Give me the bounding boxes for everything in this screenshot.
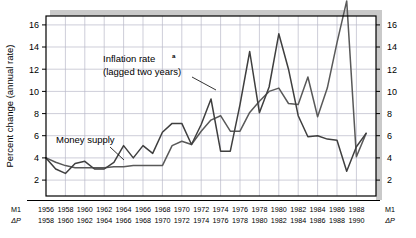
- x-tick-m1-11: 1978: [251, 205, 267, 214]
- x-tick-m1-8: 1972: [193, 205, 209, 214]
- x-row-label-right-m1: M1: [385, 205, 395, 214]
- y-tick-right-10: 10: [387, 87, 397, 97]
- y-tick-right-8: 8: [387, 109, 392, 119]
- x-tick-dp-6: 1970: [154, 216, 170, 225]
- x-tick-dp-2: 1962: [77, 216, 93, 225]
- x-tick-dp-16: 1990: [348, 216, 364, 225]
- x-tick-dp-10: 1978: [232, 216, 248, 225]
- y-axis-title: Percent change (annual rate): [4, 44, 15, 167]
- x-tick-m1-13: 1982: [290, 205, 306, 214]
- y-axis-left-labels: 16 14 12 10 8 6 4 2: [29, 20, 39, 185]
- y-tick-right-14: 14: [387, 42, 397, 52]
- y-axis-right-labels: 16 14 12 10 8 6 4 2: [387, 20, 397, 185]
- inflation-rate-annotation-superscript: a: [172, 52, 176, 59]
- frame-shadow-top: [50, 10, 382, 16]
- x-tick-m1-10: 1976: [232, 205, 248, 214]
- x-row-label-left-m1: M1: [11, 205, 21, 214]
- x-tick-dp-13: 1984: [290, 216, 306, 225]
- x-tick-dp-3: 1964: [96, 216, 112, 225]
- x-tick-dp-1: 1960: [57, 216, 73, 225]
- x-tick-dp-0: 1958: [38, 216, 54, 225]
- x-tick-m1-0: 1956: [38, 205, 54, 214]
- x-tick-dp-7: 1972: [174, 216, 190, 225]
- x-tick-m1-1: 1958: [57, 205, 73, 214]
- x-tick-dp-4: 1966: [116, 216, 132, 225]
- x-row-label-left-delta-p: ΔP: [10, 216, 21, 225]
- chart-figure: 16 14 12 10 8 6 4 2 16 14 12 10 8 6 4 2 …: [0, 0, 416, 238]
- x-tick-m1-15: 1986: [329, 205, 345, 214]
- y-tick-right-12: 12: [387, 65, 397, 75]
- y-tick-right-16: 16: [387, 20, 397, 30]
- x-tick-m1-4: 1964: [116, 205, 132, 214]
- y-tick-left-2: 2: [34, 175, 39, 185]
- money-supply-inflation-line-chart: 16 14 12 10 8 6 4 2 16 14 12 10 8 6 4 2 …: [0, 0, 416, 238]
- inflation-rate-annotation-line2: (lagged two years): [103, 66, 181, 77]
- frame-shadow-right: [376, 16, 382, 200]
- y-tick-left-12: 12: [29, 65, 39, 75]
- money-supply-annotation-label: Money supply: [56, 134, 115, 145]
- inflation-rate-annotation-line1: Inflation rate: [103, 53, 155, 64]
- x-tick-dp-12: 1982: [271, 216, 287, 225]
- y-tick-left-14: 14: [29, 42, 39, 52]
- x-tick-dp-11: 1980: [251, 216, 267, 225]
- y-tick-left-6: 6: [34, 131, 39, 141]
- x-tick-m1-5: 1966: [135, 205, 151, 214]
- x-tick-m1-6: 1968: [154, 205, 170, 214]
- x-row-label-right-delta-p: ΔP: [384, 216, 395, 225]
- x-tick-dp-8: 1974: [193, 216, 209, 225]
- x-tick-dp-9: 1976: [213, 216, 229, 225]
- y-tick-left-4: 4: [34, 153, 39, 163]
- x-tick-m1-14: 1984: [310, 205, 326, 214]
- x-tick-m1-16: 1988: [348, 205, 364, 214]
- x-tick-m1-12: 1980: [271, 205, 287, 214]
- y-tick-right-2: 2: [387, 175, 392, 185]
- x-axis-row-delta-p: ΔP 1958 1960 1962 1964 1966 1968 1970 19…: [10, 216, 395, 225]
- y-tick-left-16: 16: [29, 20, 39, 30]
- x-tick-m1-9: 1974: [213, 205, 229, 214]
- x-tick-dp-14: 1986: [310, 216, 326, 225]
- x-tick-m1-3: 1962: [96, 205, 112, 214]
- y-tick-left-10: 10: [29, 87, 39, 97]
- x-tick-m1-7: 1970: [174, 205, 190, 214]
- y-tick-right-4: 4: [387, 153, 392, 163]
- x-axis-row-m1: M1 1956 1958 1960 1962 1964 1966 1968 19…: [11, 205, 395, 214]
- y-tick-left-8: 8: [34, 109, 39, 119]
- x-tick-dp-5: 1968: [135, 216, 151, 225]
- y-tick-right-6: 6: [387, 131, 392, 141]
- x-tick-m1-2: 1960: [77, 205, 93, 214]
- x-tick-dp-15: 1988: [329, 216, 345, 225]
